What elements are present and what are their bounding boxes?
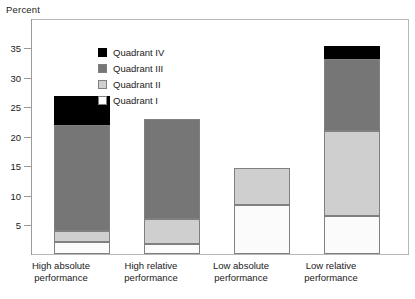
bar-segment-quadrant-ii — [144, 219, 200, 244]
y-tick-label-20: 20 — [0, 132, 21, 143]
bar-segment-quadrant-ii — [324, 131, 380, 216]
bar-segment-quadrant-iv — [324, 46, 380, 59]
x-category-label-low-absolute-performance: Low absolute performance — [193, 260, 289, 283]
y-tick-10 — [24, 196, 31, 197]
bar-segment-quadrant-i — [234, 205, 290, 254]
x-category-label-line2: performance — [283, 272, 379, 284]
legend-item-quadrant-i: Quadrant I — [98, 93, 164, 107]
legend-item-quadrant-ii: Quadrant II — [98, 77, 164, 91]
legend-item-quadrant-iv: Quadrant IV — [98, 45, 164, 59]
x-category-label-line1: High relative — [103, 260, 199, 272]
legend-swatch-icon — [98, 80, 107, 89]
legend-item-quadrant-iii: Quadrant III — [98, 61, 164, 75]
x-category-label-line1: High absolute — [13, 260, 109, 272]
y-tick-35 — [24, 48, 31, 49]
legend-item-label: Quadrant I — [113, 95, 158, 106]
legend: Quadrant IV Quadrant III Quadrant II Qua… — [98, 45, 164, 107]
y-tick-30 — [24, 78, 31, 79]
y-axis-unit-caption: Percent — [6, 4, 40, 15]
y-tick-25 — [24, 107, 31, 108]
legend-swatch-icon — [98, 48, 107, 57]
x-category-label-line2: performance — [103, 272, 199, 284]
bar-segment-quadrant-iii — [54, 125, 110, 231]
x-category-label-high-relative-performance: High relative performance — [103, 260, 199, 283]
y-tick-label-35: 35 — [0, 43, 21, 54]
y-tick-label-10: 10 — [0, 191, 21, 202]
legend-item-label: Quadrant II — [113, 79, 161, 90]
y-tick-label-5: 5 — [0, 220, 21, 231]
x-category-label-line1: Low relative — [283, 260, 379, 272]
plot-frame: Quadrant IV Quadrant III Quadrant II Qua… — [31, 19, 409, 255]
legend-item-label: Quadrant IV — [113, 47, 164, 58]
bar-segment-quadrant-iii — [144, 119, 200, 219]
y-tick-5 — [24, 225, 31, 226]
legend-item-label: Quadrant III — [113, 63, 163, 74]
x-category-label-line1: Low absolute — [193, 260, 289, 272]
bar-segment-quadrant-ii — [234, 168, 290, 205]
y-tick-label-30: 30 — [0, 73, 21, 84]
legend-swatch-icon — [98, 64, 107, 73]
bar-segment-quadrant-i — [324, 216, 380, 254]
y-tick-15 — [24, 166, 31, 167]
x-category-label-low-relative-performance: Low relative performance — [283, 260, 379, 283]
legend-swatch-icon — [98, 96, 107, 105]
y-tick-label-15: 15 — [0, 161, 21, 172]
y-tick-20 — [24, 137, 31, 138]
bar-segment-quadrant-ii — [54, 231, 110, 243]
bar-segment-quadrant-i — [144, 244, 200, 254]
plot-area — [32, 20, 408, 254]
y-tick-label-25: 25 — [0, 102, 21, 113]
bar-segment-quadrant-i — [54, 242, 110, 254]
bar-segment-quadrant-iii — [324, 59, 380, 131]
x-category-label-line2: performance — [13, 272, 109, 284]
stacked-bar-chart: Percent — [0, 0, 415, 299]
y-axis-line — [31, 19, 32, 255]
x-category-label-line2: performance — [193, 272, 289, 284]
x-category-label-high-absolute-performance: High absolute performance — [13, 260, 109, 283]
